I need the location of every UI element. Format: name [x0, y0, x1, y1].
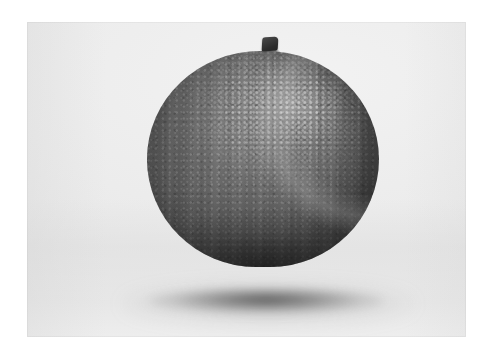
page: A single whole orange with a short dark …: [0, 0, 494, 358]
photograph: A single whole orange with a short dark …: [27, 22, 466, 337]
fruit-stem: [262, 37, 279, 52]
contact-shadow: [148, 288, 384, 314]
orange-fruit: [147, 37, 379, 267]
fruit-rim-light: [147, 51, 379, 267]
